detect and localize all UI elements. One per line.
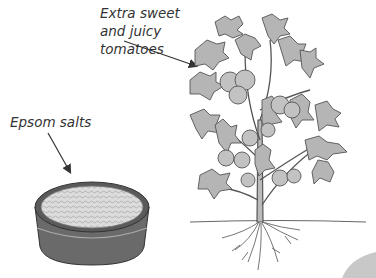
ground-line (190, 221, 366, 223)
corner-decoration (342, 252, 376, 278)
leaves (190, 14, 347, 199)
epsom-salts-bowl (35, 182, 149, 265)
epsom-arrow (48, 133, 70, 172)
roots (222, 222, 300, 270)
tomatoes-arrow (124, 41, 196, 66)
diagram-illustration (0, 0, 376, 278)
